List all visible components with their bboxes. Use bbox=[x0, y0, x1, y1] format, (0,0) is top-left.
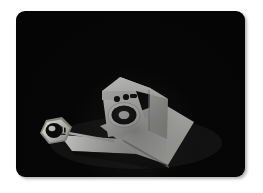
knob-right bbox=[123, 94, 129, 100]
canvas-root: dark scene backdrop white appliance body… bbox=[0, 0, 263, 193]
porthole-door[interactable] bbox=[108, 103, 140, 128]
knob-left bbox=[114, 96, 120, 102]
scene-plate: dark scene backdrop white appliance body… bbox=[16, 11, 245, 177]
hex-badge-center-highlight bbox=[49, 126, 56, 131]
hex-badge-markings bbox=[57, 126, 66, 135]
porthole-inner-disc bbox=[119, 111, 130, 119]
knob-slot bbox=[130, 94, 137, 98]
scene-illustration bbox=[16, 11, 245, 177]
